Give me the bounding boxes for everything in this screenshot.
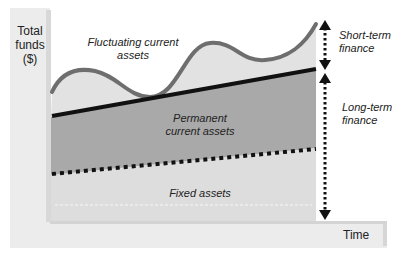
y-axis-label: Total funds ($) [10,24,50,66]
fluctuating-assets-label-line1: Fluctuating current [78,36,188,49]
fluctuating-assets-label: Fluctuating current assets [78,36,188,62]
short-term-arrow-up-icon [319,20,331,30]
short-term-arrow-down-icon [319,60,331,70]
long-term-finance-line2: finance [342,114,392,127]
long-term-arrow-down-icon [319,210,331,220]
y-axis-label-line3: ($) [10,52,50,66]
permanent-assets-label-line1: Permanent [150,112,250,125]
x-axis-band [10,222,387,248]
long-term-arrow-up-icon [319,73,331,83]
long-term-finance-line1: Long-term [342,101,392,114]
y-axis-label-line2: funds [10,38,50,52]
short-term-finance-line2: finance [339,42,391,55]
permanent-assets-label-line2: current assets [150,125,250,138]
x-axis-label: Time [343,229,369,242]
short-term-finance-line1: Short-term [339,29,391,42]
y-axis-label-line1: Total [10,24,50,38]
fluctuating-assets-label-line2: assets [78,49,188,62]
short-term-finance-label: Short-term finance [339,29,391,55]
x-axis-band-edge [383,222,387,246]
fixed-assets-label: Fixed assets [150,187,250,200]
permanent-assets-label: Permanent current assets [150,112,250,138]
x-axis-band-top [50,221,387,224]
long-term-finance-label: Long-term finance [342,101,392,127]
